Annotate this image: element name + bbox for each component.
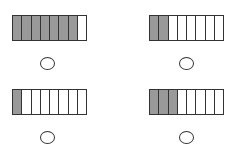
- shaded-segment: [50, 16, 59, 40]
- unshaded-segment: [41, 90, 50, 114]
- answer-circle[interactable]: [179, 131, 194, 144]
- shaded-segment: [32, 16, 41, 40]
- unshaded-segment: [78, 16, 86, 40]
- shaded-segment: [169, 90, 178, 114]
- shaded-segment: [13, 16, 22, 40]
- fraction-figure-top-left: [0, 0, 118, 74]
- fraction-figure-bottom-left: [0, 74, 118, 148]
- unshaded-segment: [187, 16, 196, 40]
- fraction-figure-top-right: [118, 0, 236, 74]
- unshaded-segment: [196, 16, 205, 40]
- shaded-segment: [22, 16, 31, 40]
- shaded-segment: [69, 16, 78, 40]
- unshaded-segment: [206, 16, 215, 40]
- fraction-figure-bottom-right: [118, 74, 236, 148]
- shaded-segment: [13, 90, 22, 114]
- unshaded-segment: [50, 90, 59, 114]
- shaded-segment: [59, 16, 68, 40]
- unshaded-segment: [78, 90, 86, 114]
- answer-circle[interactable]: [179, 57, 194, 70]
- unshaded-segment: [59, 90, 68, 114]
- shaded-segment: [41, 16, 50, 40]
- shaded-segment: [150, 16, 159, 40]
- unshaded-segment: [215, 90, 223, 114]
- fraction-bar: [12, 15, 87, 41]
- unshaded-segment: [178, 16, 187, 40]
- unshaded-segment: [178, 90, 187, 114]
- unshaded-segment: [206, 90, 215, 114]
- unshaded-segment: [187, 90, 196, 114]
- unshaded-segment: [215, 16, 223, 40]
- shaded-segment: [159, 90, 168, 114]
- unshaded-segment: [169, 16, 178, 40]
- shaded-segment: [150, 90, 159, 114]
- fraction-bar: [149, 89, 224, 115]
- answer-circle[interactable]: [40, 131, 55, 144]
- unshaded-segment: [69, 90, 78, 114]
- unshaded-segment: [22, 90, 31, 114]
- answer-circle[interactable]: [40, 57, 55, 70]
- unshaded-segment: [196, 90, 205, 114]
- fraction-bar: [12, 89, 87, 115]
- unshaded-segment: [32, 90, 41, 114]
- shaded-segment: [159, 16, 168, 40]
- fraction-bar: [149, 15, 224, 41]
